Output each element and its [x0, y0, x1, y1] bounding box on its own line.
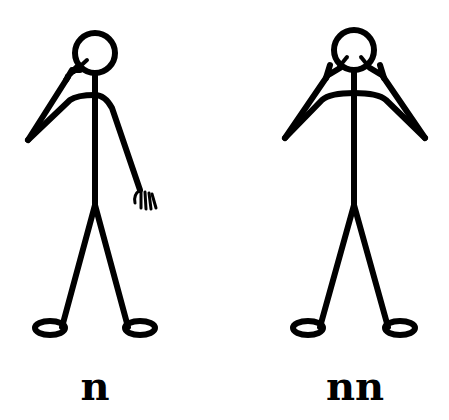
- label-left: n: [60, 366, 130, 406]
- stick-figures-diagram: [0, 0, 449, 420]
- figure-left: [28, 33, 156, 335]
- open-hand: [135, 190, 156, 209]
- raised-forearm-left: [285, 75, 328, 138]
- legs: [62, 205, 128, 327]
- hand-left: [326, 65, 340, 78]
- legs: [320, 205, 388, 327]
- hand-right: [370, 65, 384, 78]
- label-right: nn: [310, 366, 400, 406]
- hand-near-eye: [66, 68, 80, 80]
- figure-right: [285, 30, 425, 335]
